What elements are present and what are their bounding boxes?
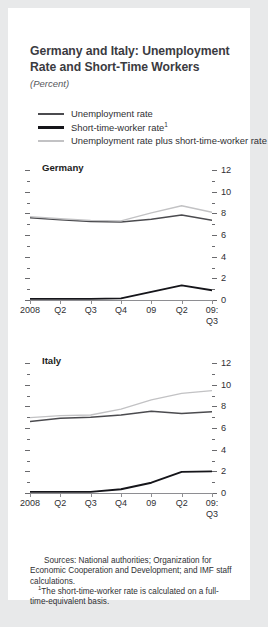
- y-tick-minor: [212, 203, 215, 204]
- x-tick: [212, 300, 213, 304]
- y-tick-major: [212, 428, 217, 429]
- y-tick-label: 8: [221, 208, 226, 218]
- y-tick-minor: [212, 289, 215, 290]
- y-tick-minor: [212, 396, 215, 397]
- legend-line-icon-combined-rate: [38, 140, 64, 142]
- x-tick: [91, 300, 92, 304]
- figure-page: Germany and Italy: Unemployment Rate and…: [0, 0, 267, 627]
- panel-title-italy: Italy: [42, 355, 61, 366]
- y-tick-major: [212, 235, 217, 236]
- x-axis-labels-italy: 2008Q2Q3Q409Q209: Q3: [8, 498, 250, 528]
- y-tick-major: [212, 170, 217, 171]
- y-tick-major: [212, 257, 217, 258]
- x-tick-label: 09: Q3: [206, 498, 219, 519]
- y-tick-label: 4: [221, 445, 226, 455]
- chart-panel-germany: Germany 024681012 2008Q2Q3Q409Q209: Q3: [8, 160, 250, 350]
- x-tick: [30, 493, 31, 497]
- y-tick-minor: [212, 482, 215, 483]
- x-tick-label: Q4: [115, 498, 127, 509]
- x-tick-label: Q2: [54, 305, 66, 316]
- y-tick-label: 6: [221, 230, 226, 240]
- x-tick: [151, 493, 152, 497]
- x-tick-label: 2008: [20, 305, 40, 316]
- footnote-1: 1The short-time-worker rate is calculate…: [30, 587, 235, 608]
- legend-label-short-time-worker-rate: Short-time-worker rate1: [71, 122, 168, 133]
- plot-svg-italy: [30, 363, 212, 493]
- legend-text-short-time-worker-rate: Short-time-worker rate: [71, 122, 164, 133]
- y-tick-minor: [212, 461, 215, 462]
- x-tick-label: Q4: [115, 305, 127, 316]
- y-tick-minor: [212, 268, 215, 269]
- y-tick-label: 4: [221, 252, 226, 262]
- legend-item-short-time-worker-rate: Short-time-worker rate1: [38, 121, 253, 135]
- plot-svg-germany: [30, 170, 212, 300]
- y-tick-minor: [212, 417, 215, 418]
- legend-line-icon-unemployment-rate: [38, 113, 64, 115]
- series-line: [30, 285, 212, 299]
- y-tick-label: 10: [221, 187, 231, 197]
- x-tick-label: 09: [146, 305, 156, 316]
- legend-label-combined-rate: Unemployment rate plus short-time-worker…: [71, 135, 267, 146]
- y-tick-label: 2: [221, 273, 226, 283]
- y-tick-major: [212, 385, 217, 386]
- y-axis-left-ticks-italy: [22, 363, 30, 493]
- x-tick: [121, 300, 122, 304]
- y-tick-label: 12: [221, 165, 231, 175]
- y-tick-label: 10: [221, 380, 231, 390]
- x-tick-label: 09: [146, 498, 156, 509]
- y-tick-label: 8: [221, 401, 226, 411]
- x-tick-label: Q2: [176, 305, 188, 316]
- x-tick-label: Q3: [85, 305, 97, 316]
- x-tick: [182, 493, 183, 497]
- y-tick-major: [212, 363, 217, 364]
- chart-panel-italy: Italy 024681012 2008Q2Q3Q409Q209: Q3: [8, 353, 250, 543]
- x-tick-label: Q3: [85, 498, 97, 509]
- y-tick-label: 2: [221, 466, 226, 476]
- legend-footnote-marker: 1: [164, 121, 168, 128]
- x-tick-label: 2008: [20, 498, 40, 509]
- x-tick: [121, 493, 122, 497]
- legend-item-combined-rate: Unemployment rate plus short-time-worker…: [38, 134, 253, 148]
- y-tick-minor: [212, 374, 215, 375]
- x-tick: [60, 493, 61, 497]
- x-axis-labels-germany: 2008Q2Q3Q409Q209: Q3: [8, 305, 250, 335]
- series-line: [30, 471, 212, 492]
- y-axis-left-ticks-germany: [22, 170, 30, 300]
- y-tick-minor: [212, 224, 215, 225]
- y-tick-major: [212, 406, 217, 407]
- x-axis-germany: [30, 300, 212, 304]
- x-tick: [60, 300, 61, 304]
- y-tick-label: 6: [221, 423, 226, 433]
- figure-card: Germany and Italy: Unemployment Rate and…: [8, 8, 250, 600]
- legend-item-unemployment-rate: Unemployment rate: [38, 107, 253, 121]
- panel-title-germany: Germany: [42, 162, 84, 173]
- figure-notes: Sources: National authorities; Organizat…: [30, 556, 235, 607]
- y-tick-label: 12: [221, 358, 231, 368]
- y-tick-minor: [212, 246, 215, 247]
- x-tick: [151, 300, 152, 304]
- y-axis-italy: 024681012: [212, 363, 250, 493]
- x-axis-italy: [30, 493, 212, 497]
- legend-line-icon-short-time-worker-rate: [38, 126, 64, 129]
- legend-label-unemployment-rate: Unemployment rate: [71, 108, 153, 119]
- x-tick-label: Q2: [176, 498, 188, 509]
- plot-area-germany: [30, 170, 212, 300]
- y-tick-label: 0: [221, 295, 226, 305]
- page-title: Germany and Italy: Unemployment Rate and…: [30, 44, 235, 75]
- sources-note: Sources: National authorities; Organizat…: [30, 556, 235, 587]
- figure-units: (Percent): [30, 78, 69, 89]
- chart-legend: Unemployment rate Short-time-worker rate…: [38, 107, 253, 148]
- y-tick-major: [212, 213, 217, 214]
- x-tick-label: Q2: [54, 498, 66, 509]
- y-tick-major: [212, 450, 217, 451]
- y-tick-label: 0: [221, 488, 226, 498]
- plot-area-italy: [30, 363, 212, 493]
- x-tick: [182, 300, 183, 304]
- y-tick-major: [212, 192, 217, 193]
- footnote-text: The short-time-worker rate is calculated…: [30, 587, 219, 606]
- x-tick: [30, 300, 31, 304]
- y-tick-minor: [212, 181, 215, 182]
- x-tick: [212, 493, 213, 497]
- y-axis-germany: 024681012: [212, 170, 250, 300]
- x-tick: [91, 493, 92, 497]
